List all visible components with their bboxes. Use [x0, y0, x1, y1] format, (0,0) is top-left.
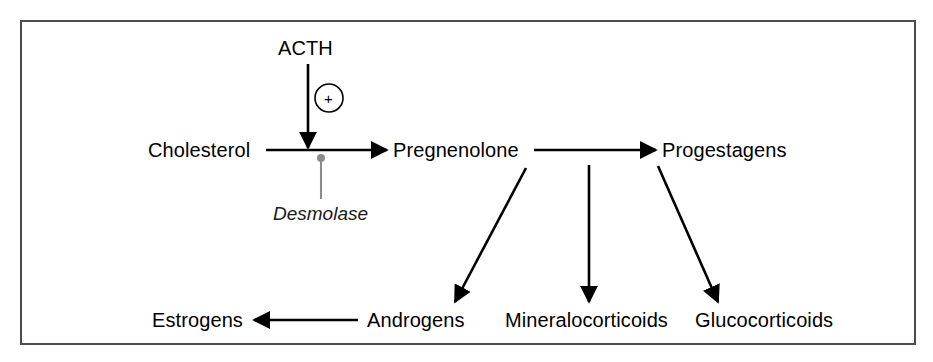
- node-estrogens: Estrogens: [152, 310, 243, 330]
- enzyme-desmolase: Desmolase: [273, 204, 368, 223]
- node-progestagens: Progestagens: [662, 140, 787, 160]
- node-androgens: Androgens: [367, 310, 465, 330]
- node-cholesterol: Cholesterol: [148, 140, 250, 160]
- arrow-pregnenolone-to-androgens: [455, 168, 526, 302]
- node-glucocorticoids: Glucocorticoids: [695, 310, 833, 330]
- node-mineralocorticoids: Mineralocorticoids: [505, 310, 668, 330]
- figure-canvas: ACTH Cholesterol Pregnenolone Progestage…: [0, 0, 933, 362]
- pathway-diagram: [0, 0, 933, 362]
- node-pregnenolone: Pregnenolone: [393, 140, 519, 160]
- desmolase-anchor-dot: [317, 154, 325, 162]
- node-acth: ACTH: [278, 38, 333, 58]
- arrow-progestagens-to-glucocorticoids: [658, 166, 718, 302]
- stimulation-plus-label: +: [324, 91, 333, 106]
